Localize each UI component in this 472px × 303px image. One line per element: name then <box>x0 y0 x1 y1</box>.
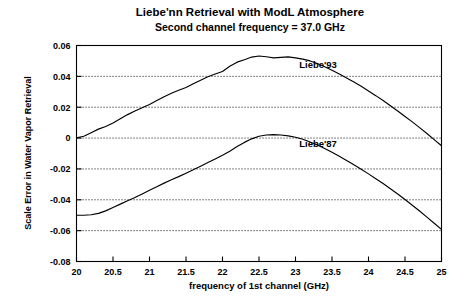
chart-subtitle: Second channel frequency = 37.0 GHz <box>155 21 345 33</box>
x-tick-label: 21 <box>144 267 154 277</box>
y-tick-label: -0.04 <box>50 195 71 205</box>
chart-figure: Liebe'nn Retrieval with ModL Atmosphere … <box>0 0 472 303</box>
x-tick-label: 23 <box>290 267 300 277</box>
x-tick-label: 23.5 <box>323 267 341 277</box>
x-tick-label: 25 <box>436 267 446 277</box>
series-annotation-liebe93: Liebe'93 <box>299 59 337 70</box>
x-tick-label: 22.5 <box>250 267 268 277</box>
y-tick-label: -0.06 <box>50 226 71 236</box>
x-tick-label: 21.5 <box>177 267 195 277</box>
series-annotation-liebe87: Liebe'87 <box>299 138 337 149</box>
x-tick-label: 22 <box>217 267 227 277</box>
chart-title: Liebe'nn Retrieval with ModL Atmosphere <box>136 6 364 18</box>
x-tick-label: 24 <box>363 267 373 277</box>
x-tick-label: 20 <box>71 267 81 277</box>
x-tick-label: 20.5 <box>104 267 122 277</box>
y-tick-label: 0.02 <box>53 103 71 113</box>
y-tick-label: -0.08 <box>50 257 71 267</box>
y-axis-label: Scale Error in Water Vapor Retrieval <box>23 76 33 230</box>
x-tick-label: 24.5 <box>396 267 414 277</box>
y-tick-label: 0 <box>65 133 70 143</box>
y-tick-label: 0.04 <box>53 72 71 82</box>
x-axis-label: frequency of 1st channel (GHz) <box>189 280 329 291</box>
y-tick-label: -0.02 <box>50 164 71 174</box>
y-tick-label: 0.06 <box>53 41 71 51</box>
